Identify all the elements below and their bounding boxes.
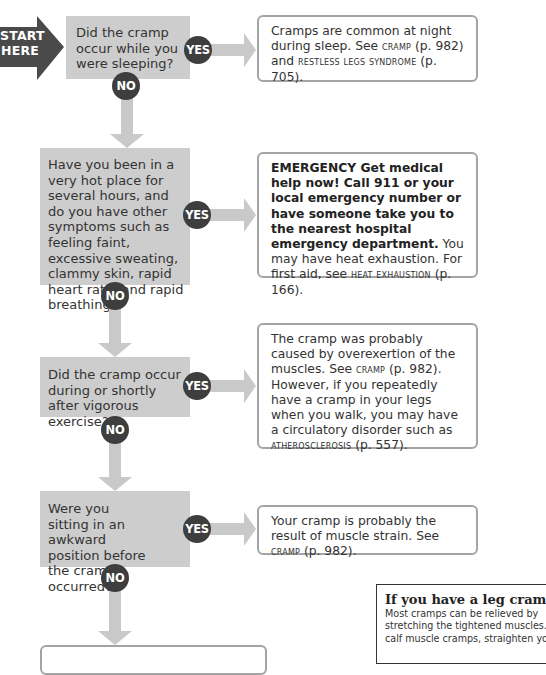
tip-line: calf muscle cramps, straighten yo [385,633,546,645]
cross-reference-link[interactable]: CRAMP [271,545,300,558]
answer-1-box: Cramps are common at night during sleep.… [257,15,478,82]
arrow-down-icon [110,134,144,148]
question-4-box: Were you sitting in an awkward position … [40,491,190,567]
cross-reference-link[interactable]: RESTLESS LEGS SYNDROME [298,55,416,68]
question-4-text: Were you sitting in an awkward position … [48,501,145,594]
cross-reference-link[interactable]: CRAMP [382,40,411,53]
no-badge-1[interactable]: NO [112,72,140,100]
yes-badge-3[interactable]: YES [183,372,211,400]
tip-title: If you have a leg cram [385,591,546,608]
emergency-notice: EMERGENCY Get medical help now! Call 911… [271,161,461,251]
no-badge-3[interactable]: NO [101,416,129,444]
question-2-box: Have you been in a very hot place for se… [40,148,190,285]
yes-arrow-3-shaft [206,380,244,392]
arrow-right-icon [244,198,256,232]
answer-4-box: Your cramp is probably the result of mus… [257,505,478,555]
no-arrow-3-shaft [109,439,121,479]
tip-line: stretching the tightened muscles. [385,620,546,632]
no-arrow-2-shaft [109,305,121,345]
arrow-down-icon [98,477,132,491]
yes-badge-2[interactable]: YES [183,201,211,229]
leg-cramp-tip-box: If you have a leg cram Most cramps can b… [376,584,546,664]
no-badge-4[interactable]: NO [101,564,129,592]
tip-line: Most cramps can be relieved by [385,608,546,620]
cross-reference-link[interactable]: CRAMP [356,363,385,376]
yes-arrow-2-shaft [206,209,244,221]
question-1-text: Did the cramp occur while you were sleep… [76,25,178,71]
yes-badge-4[interactable]: YES [183,515,211,543]
no-arrow-1-shaft [121,95,133,135]
arrow-down-icon [98,631,132,645]
yes-arrow-4-shaft [206,523,244,535]
next-answer-box-partial [40,645,267,675]
question-1-box: Did the cramp occur while you were sleep… [66,16,190,79]
cross-reference-link[interactable]: HEAT EXHAUSTION [351,268,431,281]
question-3-box: Did the cramp occur during or shortly af… [40,357,190,417]
cross-reference-link[interactable]: ATHEROSCLEROSIS [271,439,351,452]
arrow-down-icon [98,343,132,357]
no-arrow-4-shaft [109,587,121,633]
arrow-right-icon [244,33,256,67]
start-here-label: START HERE [0,28,40,58]
arrow-right-icon [244,512,256,546]
no-badge-2[interactable]: NO [101,282,129,310]
arrow-right-icon [244,369,256,403]
answer-2-box: EMERGENCY Get medical help now! Call 911… [257,152,478,278]
answer-3-box: The cramp was probably caused by overexe… [257,323,478,449]
yes-badge-1[interactable]: YES [184,36,212,64]
